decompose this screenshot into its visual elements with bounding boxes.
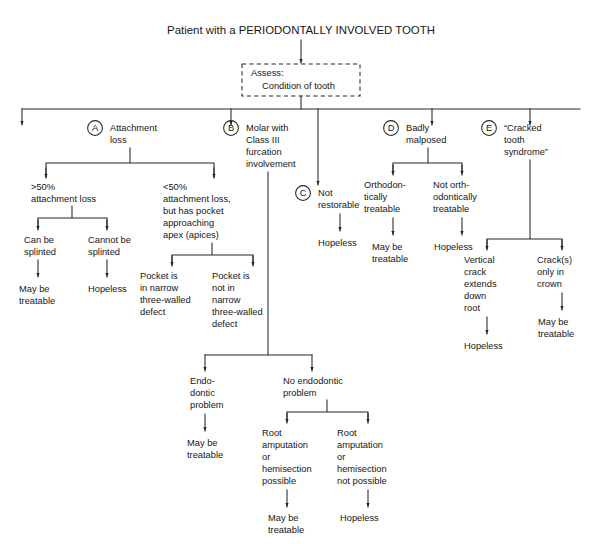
node-splint-outcome-line-2: treatable: [19, 296, 55, 306]
node-vertical-crack-line-1: Vertical: [464, 255, 495, 265]
branch-c-line-2: restorable: [318, 200, 359, 210]
node-can-splint-line-2: splinted: [24, 247, 56, 257]
node-endo-problem-line-2: dontic: [190, 388, 215, 398]
branch-badge-b-letter: B: [228, 123, 234, 133]
branch-b-line-4: involvement: [246, 159, 296, 169]
node-ortho-line-3: treatable: [364, 204, 400, 214]
node-pocket-not-narrow-line-5: defect: [212, 319, 238, 329]
node-crack-crown-outcome-line-1: May be: [538, 317, 569, 327]
node-pocket-not-narrow-line-3: narrow: [212, 295, 241, 305]
branch-e-line-2: tooth: [504, 135, 525, 145]
node-can-splint-line-1: Can be: [24, 235, 54, 245]
node-not-ortho-line-3: treatable: [433, 204, 469, 214]
flowchart-diagram: Patient with a PERIODONTALLY INVOLVED TO…: [0, 0, 602, 544]
node-vertical-crack-line-5: root: [464, 303, 480, 313]
node-ortho-outcome-line-1: May be: [372, 242, 403, 252]
node-pocket-not-narrow-line-2: not in: [212, 283, 235, 293]
node-crack-crown-line-2: only in: [537, 267, 564, 277]
node-root-amp-possible-line-5: possible: [262, 476, 296, 486]
node-pocket-narrow-line-1: Pocket is: [140, 271, 178, 281]
node-root-amp-possible-line-2: amputation: [262, 440, 308, 450]
branch-badge-a-letter: A: [92, 123, 99, 133]
edge-less50-split: [172, 243, 253, 264]
node-root-amp-possible-line-4: hemisection: [262, 464, 312, 474]
node-endo-outcome-line-1: May be: [187, 438, 218, 448]
edge-branch-d-split: [393, 148, 462, 173]
node-crack-crown-line-3: crown: [537, 279, 562, 289]
branch-badge-c-letter: C: [300, 188, 307, 198]
node-splint-outcome-line-1: May be: [19, 284, 50, 294]
node-crack-crown-outcome-line-2: treatable: [538, 329, 574, 339]
node-less50-line-2: attachment loss,: [163, 194, 231, 204]
node-vertical-crack-line-2: crack: [464, 267, 487, 277]
branch-b-line-3: furcation: [246, 147, 282, 157]
assess-label-line1: Assess:: [251, 68, 284, 78]
assess-label-line2: Condition of tooth: [262, 81, 335, 91]
node-more50-line-1: >50%: [31, 182, 55, 192]
branch-a-line-1: Attachment: [110, 123, 157, 133]
node-more50-line-2: attachment loss: [31, 194, 96, 204]
node-root-amp-not-line-5: not possible: [337, 476, 387, 486]
node-less50-line-1: <50%: [163, 182, 187, 192]
node-not-ortho-outcome: Hopeless: [434, 242, 473, 252]
node-less50-line-4: approaching: [163, 218, 214, 228]
node-pocket-narrow-line-3: three-walled: [140, 295, 191, 305]
diagram-title: Patient with a PERIODONTALLY INVOLVED TO…: [167, 24, 435, 36]
node-cannot-splint-line-2: splinted: [88, 247, 120, 257]
node-less50-line-3: but has pocket: [163, 206, 224, 216]
branch-badge-d-letter: D: [388, 123, 395, 133]
node-less50-line-5: apex (apices): [163, 230, 219, 240]
node-root-amp-outcome-line-1: May be: [268, 513, 299, 523]
node-root-amp-possible-line-1: Root: [262, 428, 282, 438]
node-root-amp-not-line-2: amputation: [337, 440, 383, 450]
node-endo-problem-line-3: problem: [190, 400, 224, 410]
branch-e-line-1: “Cracked: [504, 123, 542, 133]
node-c-outcome: Hopeless: [318, 238, 357, 248]
node-no-endo-line-2: problem: [283, 388, 317, 398]
edge-branch-a-split: [46, 148, 214, 177]
node-pocket-not-narrow-line-1: Pocket is: [212, 271, 250, 281]
node-root-amp-not-outcome: Hopeless: [340, 513, 379, 523]
node-not-ortho-line-1: Not orth-: [433, 180, 469, 190]
node-root-amp-not-line-1: Root: [337, 428, 357, 438]
branch-d-line-2: malposed: [406, 135, 446, 145]
node-no-endo-line-1: No endodontic: [283, 376, 343, 386]
node-vertical-crack-line-3: extends: [464, 279, 497, 289]
node-root-amp-not-line-4: hemisection: [337, 464, 387, 474]
branch-c-line-1: Not: [318, 188, 333, 198]
node-ortho-outcome-line-2: treatable: [372, 254, 408, 264]
node-endo-problem-line-1: Endo-: [190, 376, 215, 386]
node-endo-outcome-line-2: treatable: [187, 450, 223, 460]
node-ortho-line-1: Orthodon-: [364, 180, 406, 190]
node-ortho-line-2: tically: [364, 192, 388, 202]
node-root-amp-possible-line-3: or: [262, 452, 270, 462]
node-crack-crown-line-1: Crack(s): [537, 255, 572, 265]
node-vertical-crack-outcome: Hopeless: [464, 341, 503, 351]
edge-more50-split: [38, 206, 107, 228]
branch-badge-e-letter: E: [486, 123, 492, 133]
node-pocket-narrow-line-4: defect: [140, 307, 166, 317]
branch-e-line-3: syndrome”: [504, 147, 548, 157]
branch-a-line-2: loss: [110, 135, 127, 145]
node-not-ortho-line-2: odontically: [433, 192, 477, 202]
node-cannot-splint-line-1: Cannot be: [88, 235, 131, 245]
edge-no-endo-split: [287, 400, 368, 421]
edge-branch-e-split: [487, 160, 562, 248]
node-vertical-crack-line-4: down: [464, 291, 486, 301]
branch-d-line-1: Badly: [406, 123, 430, 133]
node-nosplint-outcome: Hopeless: [88, 284, 127, 294]
node-root-amp-not-line-3: or: [337, 452, 345, 462]
branch-b-line-2: Class III: [246, 135, 280, 145]
branch-b-line-1: Molar with: [246, 123, 288, 133]
node-pocket-not-narrow-line-4: three-walled: [212, 307, 263, 317]
flowchart-canvas: Patient with a PERIODONTALLY INVOLVED TO…: [0, 0, 602, 544]
node-pocket-narrow-line-2: in narrow: [140, 283, 179, 293]
node-root-amp-outcome-line-2: treatable: [268, 525, 304, 535]
